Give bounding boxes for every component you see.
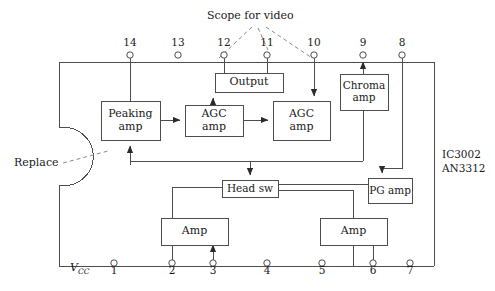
headsw-to-amp-left — [172, 187, 222, 218]
pin-11 — [264, 52, 270, 58]
pin-10 — [311, 52, 317, 58]
label-agc-amp-1: AGC amp — [185, 105, 243, 136]
peaking-amp-line-1: Peaking — [108, 108, 152, 120]
headsw-to-amp-right — [278, 190, 353, 218]
agc-amp-2-line-1: AGC — [289, 108, 314, 120]
chroma-amp-line-2: amp — [353, 92, 376, 104]
pin-label-3: 3 — [203, 264, 223, 276]
pin-label-4: 4 — [257, 264, 277, 276]
pin-label-9: 9 — [353, 36, 373, 48]
agc-amp-1-line-2: amp — [202, 121, 226, 133]
pin-label-11: 11 — [257, 36, 277, 48]
pin-label-8: 8 — [392, 36, 412, 48]
peaking-amp-line-2: amp — [118, 121, 142, 133]
pin-label-5: 5 — [312, 264, 332, 276]
label-agc-amp-2: AGC amp — [273, 101, 330, 140]
pin-13 — [175, 52, 181, 58]
amp-left-line-1: Amp — [182, 225, 207, 237]
replace-leader — [63, 151, 108, 163]
ic-part-number-1: IC3002 — [442, 149, 481, 160]
vcc-subscript: CC — [78, 267, 89, 276]
vcc-label: VCC — [70, 262, 89, 276]
vcc-main: V — [70, 261, 78, 274]
annotation-replace: Replace — [14, 157, 59, 169]
pin-label-13: 13 — [168, 36, 188, 48]
amp-right-line-1: Amp — [341, 225, 366, 237]
output-line-1: Output — [229, 76, 268, 88]
label-amp-left: Amp — [161, 218, 228, 245]
pin-label-6: 6 — [363, 264, 383, 276]
label-pg-amp: PG amp — [368, 178, 412, 203]
diagram-vector-layer — [0, 0, 495, 291]
label-output: Output — [215, 73, 283, 92]
schematic-diagram: Peaking amp AGC amp AGC amp Output Chrom… — [0, 0, 495, 291]
pg-amp-line-1: PG amp — [369, 185, 411, 197]
annotation-scope-for-video: Scope for video — [207, 10, 294, 22]
pin-label-14: 14 — [120, 36, 140, 48]
head-sw-line-1: Head sw — [227, 183, 273, 195]
agc-amp-2-line-2: amp — [289, 121, 313, 133]
agc-amp-1-line-1: AGC — [201, 108, 226, 120]
pin-label-12: 12 — [214, 36, 234, 48]
label-amp-right: Amp — [320, 218, 387, 245]
ic-pin1-notch — [59, 127, 93, 185]
pin-8 — [399, 52, 405, 58]
pin-label-10: 10 — [304, 36, 324, 48]
ic-part-number-2: AN3312 — [442, 163, 486, 174]
label-chroma-amp: Chroma amp — [340, 74, 388, 110]
pin-label-2: 2 — [162, 264, 182, 276]
pin-label-7: 7 — [400, 264, 420, 276]
label-peaking-amp: Peaking amp — [101, 101, 160, 140]
pin-label-1: 1 — [104, 264, 124, 276]
pin-9 — [360, 52, 366, 58]
pin-12 — [221, 52, 227, 58]
label-head-sw: Head sw — [222, 180, 278, 197]
pin-14 — [127, 52, 133, 58]
